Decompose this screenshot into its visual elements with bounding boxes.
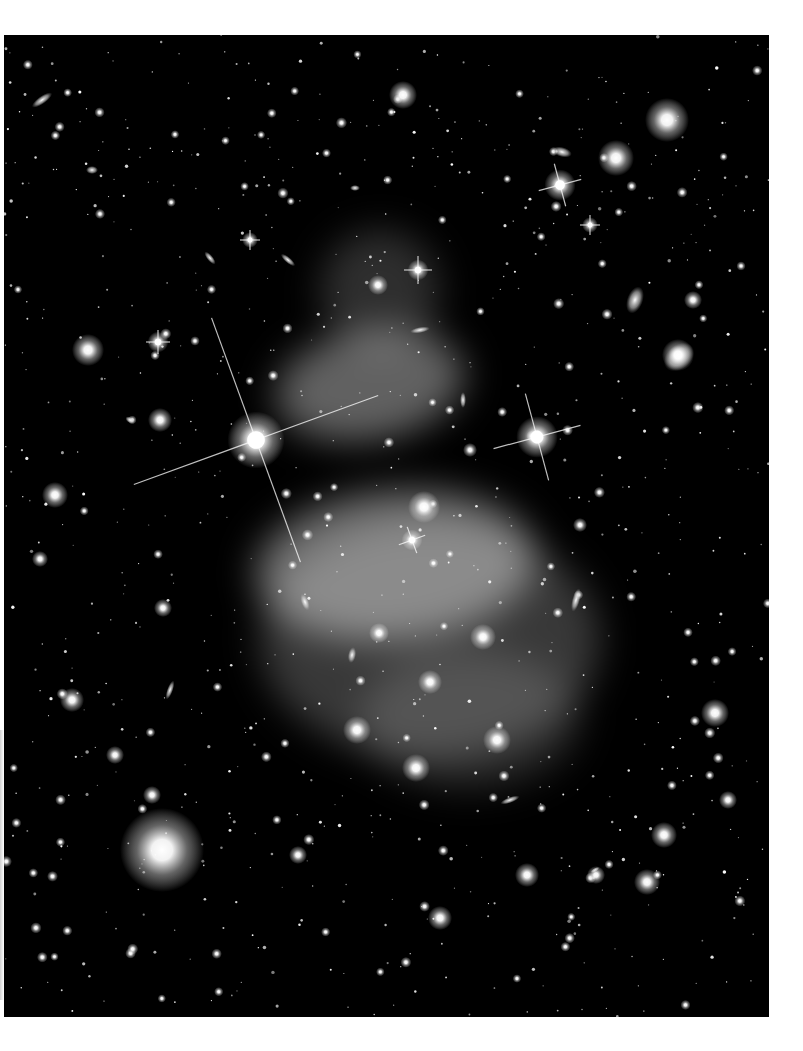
elongated-galaxy <box>164 680 176 701</box>
star <box>384 924 386 926</box>
star <box>544 413 547 416</box>
star <box>5 234 7 236</box>
star <box>713 681 714 682</box>
star <box>113 179 114 180</box>
star <box>106 911 107 912</box>
star <box>179 256 181 258</box>
star <box>565 933 575 943</box>
star <box>428 398 436 406</box>
star <box>195 273 196 274</box>
star <box>203 865 205 867</box>
bright-galaxy <box>32 551 48 567</box>
star <box>307 860 308 861</box>
star <box>270 350 272 352</box>
star <box>750 980 751 981</box>
star <box>578 907 580 909</box>
star <box>739 887 741 889</box>
star <box>235 901 237 903</box>
star <box>498 542 501 545</box>
star <box>753 934 754 935</box>
star <box>668 514 670 516</box>
star <box>724 177 727 180</box>
star <box>169 320 170 321</box>
star <box>715 66 719 70</box>
star <box>271 227 272 228</box>
elongated-galaxy <box>500 794 521 806</box>
star <box>302 771 305 774</box>
star <box>207 301 209 303</box>
star <box>751 383 752 384</box>
star <box>331 317 332 318</box>
star <box>184 764 185 765</box>
star <box>551 201 562 212</box>
star <box>299 200 300 201</box>
star <box>528 198 531 201</box>
star <box>22 352 23 353</box>
star <box>23 60 33 70</box>
star <box>61 451 64 454</box>
star <box>246 664 247 665</box>
star <box>437 156 438 157</box>
star <box>379 785 380 786</box>
star <box>583 606 586 609</box>
star <box>277 188 288 199</box>
star <box>292 167 293 168</box>
star <box>641 532 642 533</box>
star <box>85 750 89 754</box>
star <box>244 727 245 728</box>
star <box>436 634 437 635</box>
star <box>388 641 389 642</box>
star <box>15 793 16 794</box>
star <box>264 718 265 719</box>
bright-galaxy <box>587 866 605 884</box>
star <box>372 836 373 837</box>
star <box>503 224 506 227</box>
star <box>181 806 182 807</box>
star <box>196 802 197 803</box>
star <box>127 943 138 954</box>
star <box>453 515 454 516</box>
star <box>578 128 580 130</box>
elongated-galaxy <box>350 185 360 191</box>
bright-galaxy <box>719 791 737 809</box>
star <box>371 789 373 791</box>
star <box>497 407 507 417</box>
star <box>695 242 696 243</box>
star <box>463 61 465 63</box>
star <box>211 615 212 616</box>
star <box>77 451 78 452</box>
star <box>543 578 546 581</box>
bright-galaxy <box>470 624 496 650</box>
star <box>528 651 530 653</box>
star <box>719 622 721 624</box>
star <box>60 858 61 859</box>
star <box>582 128 583 129</box>
star <box>711 800 713 802</box>
star <box>467 171 470 174</box>
star <box>180 443 181 444</box>
star <box>69 401 71 403</box>
star <box>68 794 70 796</box>
star <box>319 93 320 94</box>
star <box>415 635 416 636</box>
star <box>760 657 763 660</box>
star <box>581 1009 582 1010</box>
star <box>191 154 192 155</box>
star <box>413 702 416 705</box>
star <box>760 544 762 546</box>
star <box>324 826 325 827</box>
star <box>547 96 548 97</box>
star <box>153 951 156 954</box>
star <box>600 242 601 243</box>
star <box>571 294 572 295</box>
star <box>71 667 72 668</box>
star <box>704 727 715 738</box>
star <box>609 796 610 797</box>
star <box>458 608 459 609</box>
star <box>343 973 344 974</box>
star <box>204 640 205 641</box>
star <box>566 213 568 215</box>
star <box>728 647 737 656</box>
star <box>207 513 208 514</box>
star <box>369 256 372 259</box>
